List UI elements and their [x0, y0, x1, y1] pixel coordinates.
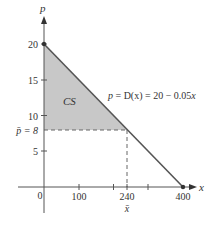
- consumer-surplus-chart: p x 20 15 10 p̄ = 8 5 0 100 240 x̄ 400 C…: [0, 0, 211, 227]
- x-bar-label: x̄: [124, 203, 130, 214]
- curve-equation-label: p = D(x) = 20 − 0.05x: [107, 90, 196, 102]
- y-label-15: 15: [28, 75, 38, 86]
- curve-eq-body: = D(x) = 20 − 0.05: [113, 90, 191, 102]
- y-axis-arrow-icon: [41, 16, 47, 24]
- p-bar-label: p̄ = 8: [15, 125, 38, 136]
- y-label-5: 5: [33, 146, 38, 157]
- x-axis-label: x: [198, 181, 204, 193]
- y-axis-label: p: [39, 2, 46, 14]
- x-axis-arrow-icon: [189, 184, 197, 190]
- x-label-100: 100: [72, 191, 87, 202]
- y-label-20: 20: [28, 39, 38, 50]
- curve-eq-x: x: [190, 90, 196, 101]
- point-x-intercept: [181, 185, 185, 189]
- origin-label: 0: [38, 190, 43, 201]
- point-p-intercept: [42, 42, 46, 46]
- cs-label: CS: [63, 95, 76, 107]
- y-label-10: 10: [28, 111, 38, 122]
- x-label-240: 240: [120, 191, 135, 202]
- x-label-400: 400: [176, 191, 191, 202]
